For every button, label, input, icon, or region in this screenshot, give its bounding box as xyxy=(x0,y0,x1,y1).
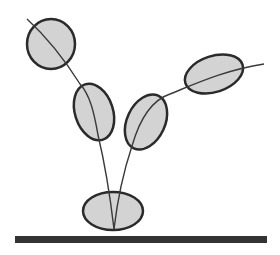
diagram-canvas xyxy=(0,0,280,255)
top-right-ellipse xyxy=(180,48,248,101)
right-middle-ellipse xyxy=(117,88,176,157)
ground-bar xyxy=(15,236,267,243)
nodes xyxy=(27,19,248,230)
plant-diagram xyxy=(0,0,280,255)
left-middle-ellipse xyxy=(67,79,121,146)
